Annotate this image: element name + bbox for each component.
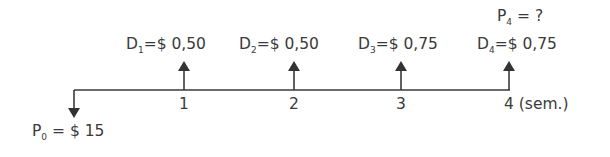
arrow-down-icon	[68, 108, 80, 118]
dividend-4-label: D4=$ 0,75	[477, 35, 557, 55]
final-price-label: P4 = ?	[497, 7, 543, 27]
dividend-1-label: D1=$ 0,50	[126, 35, 206, 55]
dividend-2-label: D2=$ 0,50	[239, 35, 319, 55]
period-2: 2	[289, 95, 299, 113]
period-3: 3	[396, 95, 406, 113]
dividend-3-label: D3=$ 0,75	[358, 35, 438, 55]
period-1: 1	[179, 95, 189, 113]
period-4-label: 4 (sem.)	[504, 95, 569, 113]
initial-price-label: P0 = $ 15	[32, 122, 104, 142]
